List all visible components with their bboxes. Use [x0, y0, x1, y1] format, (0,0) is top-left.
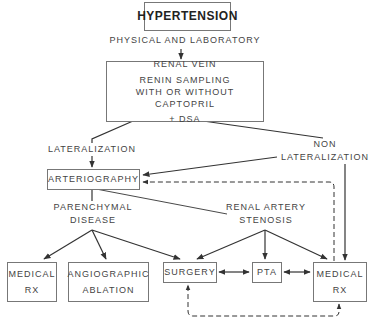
hypertension-box: HYPERTENSION: [144, 2, 231, 31]
renal-vein-line-3: WITH OR WITHOUT CAPTOPRIL: [107, 86, 263, 110]
renal-vein-line-4: + DSA: [169, 113, 200, 125]
angiographic-line-1: ANGIOGRAPHIC: [68, 268, 150, 281]
medical-rx-right-line-2: RX: [333, 284, 348, 297]
physical-and-laboratory-label: PHYSICAL AND LABORATORY: [108, 34, 261, 47]
parenchymal-line-1: PARENCHYMAL: [54, 201, 133, 214]
edge-renal-vein-to-non-lateralization: [203, 121, 323, 138]
medical-rx-left-line-2: RX: [25, 284, 40, 297]
arteriography-box: ARTERIOGRAPHY: [47, 169, 140, 190]
pta-label: PTA: [257, 266, 277, 279]
pta-box: PTA: [252, 262, 282, 283]
hypertension-label: HYPERTENSION: [137, 10, 238, 23]
surgery-label: SURGERY: [164, 266, 215, 279]
non-lateralization-line-1: NON: [281, 138, 369, 151]
non-lateralization-label: NON LATERALIZATION: [280, 138, 370, 164]
parenchymal-line-2: DISEASE: [54, 214, 133, 227]
edge-parenchymal-to-surgery: [92, 230, 180, 259]
edge-renal-vein-to-lateralization: [92, 121, 133, 143]
edge-stenosis-to-medical-rx: [265, 230, 327, 259]
angiographic-ablation-box: ANGIOGRAPHIC ABLATION: [68, 262, 149, 302]
non-lateralization-line-2: LATERALIZATION: [281, 151, 369, 164]
edge-non-lateralization-to-arteriography: [143, 157, 277, 175]
renal-artery-stenosis-label: RENAL ARTERY STENOSIS: [225, 201, 307, 227]
renal-vein-line-1: RENAL VEIN: [153, 58, 216, 70]
medical-rx-left-box: MEDICAL RX: [7, 262, 57, 302]
renal-artery-line-1: RENAL ARTERY: [226, 201, 306, 214]
medical-rx-right-line-1: MEDICAL: [316, 268, 363, 281]
parenchymal-disease-label: PARENCHYMAL DISEASE: [53, 201, 134, 227]
renal-artery-line-2: STENOSIS: [226, 214, 306, 227]
medical-rx-right-box: MEDICAL RX: [313, 262, 367, 302]
angiographic-line-2: ABLATION: [83, 284, 135, 297]
edge-stenosis-to-surgery: [197, 230, 265, 259]
edge-parenchymal-to-medical-rx: [44, 230, 92, 259]
arteriography-label: ARTERIOGRAPHY: [48, 173, 139, 186]
surgery-box: SURGERY: [163, 262, 217, 283]
renal-vein-box: RENAL VEIN RENIN SAMPLING WITH OR WITHOU…: [106, 61, 264, 122]
lateralization-label: LATERALIZATION: [47, 143, 137, 156]
renal-vein-line-2: RENIN SAMPLING: [139, 74, 230, 86]
medical-rx-left-line-1: MEDICAL: [8, 268, 55, 281]
